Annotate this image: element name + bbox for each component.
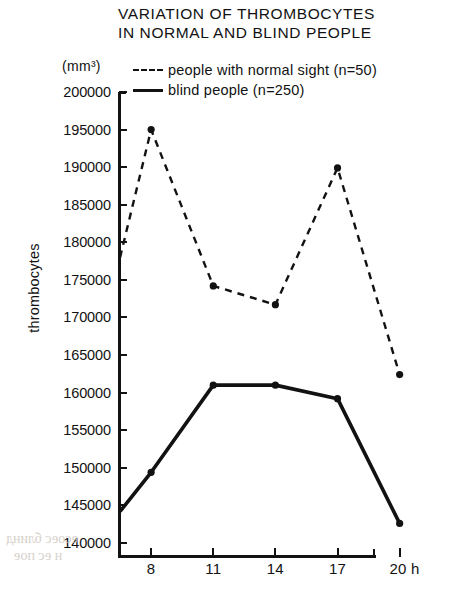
y-tick-label: 195000 <box>63 122 111 138</box>
legend-item-normal-sight: people with normal sight (n=50) <box>133 60 377 80</box>
data-point-marker <box>396 371 403 378</box>
data-point-marker <box>272 382 279 389</box>
dashed-line-swatch-icon <box>133 65 163 75</box>
data-point-marker <box>148 126 155 133</box>
y-tick-label: 145000 <box>63 497 111 513</box>
chart-title-line-1: VARIATION OF THROMBOCYTES <box>118 4 448 23</box>
chart-title-line-2: IN NORMAL AND BLIND PEOPLE <box>118 23 448 42</box>
data-point-marker <box>148 469 155 476</box>
y-axis-title: thrombocytes <box>26 218 42 358</box>
y-axis-unit-label: (mm³) <box>62 58 101 74</box>
data-point-marker <box>396 520 403 527</box>
x-tick-label: 14 <box>267 560 284 577</box>
x-tick-label: 11 <box>205 560 221 577</box>
y-tick-label: 180000 <box>63 234 111 250</box>
data-point-marker <box>272 301 279 308</box>
y-tick-label: 150000 <box>63 460 111 476</box>
y-tick-label: 140000 <box>63 535 111 551</box>
data-point-marker <box>334 164 341 171</box>
y-tick-label: 200000 <box>63 84 111 100</box>
scan-bleed-artifact-2: н ес пое <box>14 548 62 564</box>
y-tick-label: 175000 <box>63 272 111 288</box>
y-tick-label: 160000 <box>63 385 111 401</box>
y-tick-label: 185000 <box>63 197 111 213</box>
x-tick-label: 17 <box>329 560 346 577</box>
series-line <box>120 130 400 375</box>
data-point-marker <box>210 282 217 289</box>
y-tick-label: 155000 <box>63 422 111 438</box>
data-point-marker <box>334 395 341 402</box>
y-tick-label: 170000 <box>63 309 111 325</box>
chart-title: VARIATION OF THROMBOCYTES IN NORMAL AND … <box>118 4 448 42</box>
y-tick-label: 165000 <box>63 347 111 363</box>
thrombocytes-variation-chart: VARIATION OF THROMBOCYTES IN NORMAL AND … <box>0 0 456 612</box>
series-line <box>120 385 400 523</box>
x-tick-label: 20 h <box>389 560 419 577</box>
data-series-layer <box>118 92 410 558</box>
data-point-marker <box>210 382 217 389</box>
y-tick-label: 190000 <box>63 159 111 175</box>
legend-label-normal-sight: people with normal sight (n=50) <box>168 60 377 80</box>
x-tick-label: 8 <box>147 560 156 577</box>
plot-area: 1400001450001500001550001600001650001700… <box>118 92 410 558</box>
